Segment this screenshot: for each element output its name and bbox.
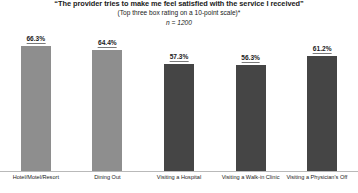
bar-chart: “The provider tries to make me feel sati…	[0, 0, 358, 193]
bar[interactable]	[21, 46, 51, 172]
bar-value-label: 57.3%	[170, 53, 189, 62]
page-title: “The provider tries to make me feel sati…	[0, 0, 358, 8]
bar[interactable]	[236, 65, 266, 172]
x-axis-labels: Hotel/Motel/Resort Dining Out Visiting a…	[0, 174, 358, 186]
x-axis-line	[0, 171, 358, 172]
bar-slot: 61.2%	[286, 30, 358, 172]
bar[interactable]	[92, 50, 122, 172]
bar-value-label: 56.3%	[241, 54, 260, 63]
bar-slot: 57.3%	[143, 30, 215, 172]
x-tick-label: Visiting a Hospital	[143, 174, 215, 181]
bar-value-label: 64.4%	[98, 39, 117, 48]
bar-value-label: 66.3%	[26, 35, 45, 44]
clipped-footer-text	[0, 186, 2, 190]
chart-title-block: “The provider tries to make me feel sati…	[0, 0, 358, 27]
plot-area: 66.3% 64.4% 57.3% 56.3% 61.2%	[0, 30, 358, 172]
x-tick-label: Visiting a Physician's Off	[286, 174, 358, 181]
x-tick-label: Hotel/Motel/Resort	[0, 174, 72, 181]
bar-slot: 64.4%	[72, 30, 144, 172]
chart-subtitle: (Top three box rating on a 10-point scal…	[0, 8, 358, 17]
bar-slot: 66.3%	[0, 30, 72, 172]
x-tick-label: Visiting a Walk-in Clinic	[215, 174, 287, 181]
bar[interactable]	[307, 56, 337, 172]
bar-value-label: 61.2%	[313, 45, 332, 54]
bar[interactable]	[164, 64, 194, 172]
x-tick-label: Dining Out	[72, 174, 144, 181]
clipped-footer-band	[0, 186, 358, 193]
sample-size-label: n = 1200	[0, 18, 358, 27]
bar-slot: 56.3%	[215, 30, 287, 172]
